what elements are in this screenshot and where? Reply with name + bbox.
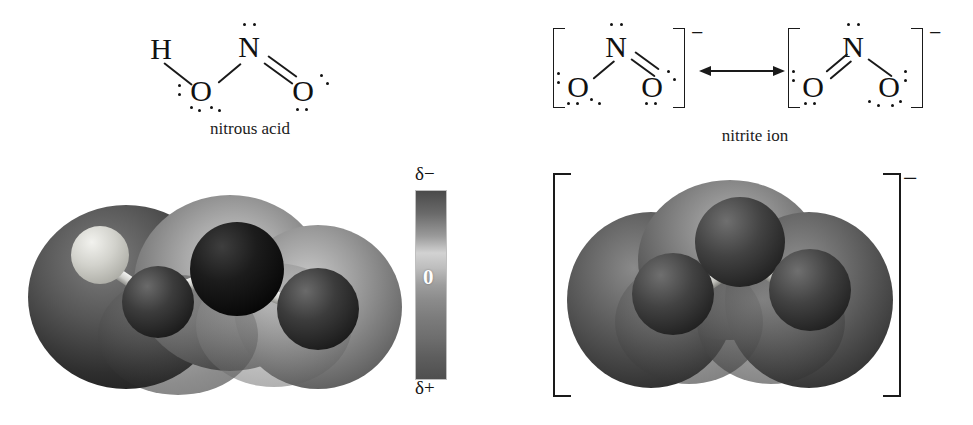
bracket-left (788, 28, 800, 108)
lewis-nitrous-acid: H N O O nitrous acid (140, 14, 380, 154)
esp-atom-oxygen-right (769, 249, 851, 331)
lewis-atom-o-right: O (639, 72, 665, 102)
scale-label-delta-plus: δ+ (415, 377, 435, 399)
lone-pair-dot (891, 104, 894, 107)
lewis-atom-h: H (148, 34, 174, 64)
esp-nitrous-acid (18, 185, 408, 400)
esp-color-scale: δ− 0 δ+ (404, 163, 464, 398)
lewis-atom-o-right: O (876, 72, 902, 102)
esp-nitrite-ion-svg (565, 172, 895, 394)
charge-minus: − (691, 22, 703, 44)
lewis-atom-o-left: O (800, 72, 826, 102)
bond-n-o-double-a (264, 62, 294, 84)
lone-pair-dot (904, 79, 907, 82)
esp-atom-oxygen-hydroxyl (122, 266, 194, 338)
resonance-arrow-icon (697, 60, 787, 82)
lone-pair-dot (576, 102, 579, 105)
esp-charge-minus: − (903, 166, 918, 192)
lone-pair-dot (654, 102, 657, 105)
lone-pair-dot (590, 98, 593, 101)
lone-pair-dot (899, 100, 902, 103)
lone-pair-dot (178, 84, 181, 87)
bond-n-o-left (592, 60, 614, 79)
lone-pair-dot (877, 104, 880, 107)
figure-canvas: H N O O nitrous acid (0, 0, 973, 425)
bracket-right (673, 28, 685, 108)
esp-atom-nitrogen (695, 197, 785, 287)
scale-label-delta-minus: δ− (415, 163, 435, 185)
lewis-atom-o-double: O (290, 76, 316, 106)
bond-n-o-right-b (635, 51, 660, 70)
esp-nitrous-acid-svg (18, 185, 408, 400)
bond-n-o-left-a (829, 60, 851, 79)
lone-pair-dot (804, 102, 807, 105)
bond-o-n (217, 63, 241, 84)
lone-pair-dot (326, 82, 329, 85)
lone-pair-dot (868, 100, 871, 103)
esp-atom-nitrogen (190, 222, 284, 316)
lone-pair-dot (847, 23, 850, 26)
lone-pair-dot (598, 102, 601, 105)
esp-nitrite-ion: − (505, 168, 925, 400)
lone-pair-dot (645, 102, 648, 105)
lewis-nitrite-ion: − N O O (545, 14, 965, 159)
lone-pair-dot (620, 23, 623, 26)
esp-atom-oxygen-terminal (277, 268, 359, 350)
lone-pair-dot (198, 109, 201, 112)
resonance-form-1: − N O O (545, 14, 710, 124)
lone-pair-dot (178, 93, 181, 96)
lone-pair-dot (567, 102, 570, 105)
bond-h-o (164, 62, 193, 85)
lone-pair-dot (857, 23, 860, 26)
lone-pair-dot (667, 70, 670, 73)
lone-pair-dot (305, 108, 308, 111)
bracket-left (553, 28, 565, 108)
lewis-atom-o-hydroxyl: O (188, 76, 214, 106)
resonance-arrow (697, 60, 787, 82)
lone-pair-dot (218, 109, 221, 112)
lone-pair-dot (210, 106, 213, 109)
lone-pair-dot (296, 108, 299, 111)
charge-minus: − (929, 22, 941, 44)
lone-pair-dot (610, 23, 613, 26)
lone-pair-dot (243, 23, 246, 26)
lewis-atom-o-left: O (565, 72, 591, 102)
resonance-form-2: − N O O (780, 14, 950, 124)
lone-pair-dot (253, 23, 256, 26)
lone-pair-dot (904, 70, 907, 73)
bracket-right (911, 28, 923, 108)
scale-label-zero: 0 (423, 265, 434, 290)
bond-n-o-double-b (268, 55, 298, 77)
caption-nitrite-ion: nitrite ion (645, 126, 865, 146)
lone-pair-dot (320, 74, 323, 77)
lewis-atom-n: N (236, 32, 262, 62)
lewis-atom-n: N (603, 32, 629, 62)
lone-pair-dot (190, 106, 193, 109)
esp-atom-hydrogen (71, 226, 129, 284)
caption-nitrous-acid: nitrous acid (130, 119, 370, 139)
lone-pair-dot (813, 102, 816, 105)
